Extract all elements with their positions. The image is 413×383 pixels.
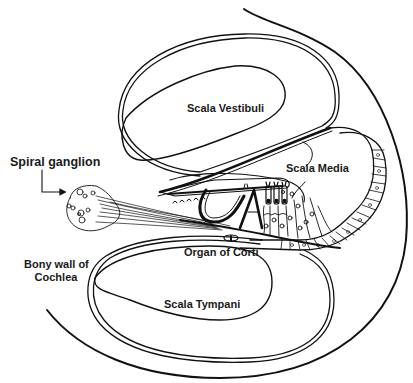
label-scala-vestibuli: Scala Vestibuli [187, 102, 264, 115]
label-scala-tympani: Scala Tympani [164, 298, 240, 311]
inner-sulcus-u [200, 190, 244, 222]
scala-media-wall [250, 127, 374, 240]
cochlear-nerve-fibers [96, 196, 230, 230]
arrow-head-icon [60, 189, 66, 195]
bony-wall-outer-curve [47, 9, 407, 378]
cochlea-drawing [0, 0, 413, 383]
label-scala-media: Scala Media [286, 162, 349, 175]
label-organ-of-corti: Organ of Corti [184, 246, 259, 259]
label-spiral-ganglion: Spiral ganglion [10, 156, 100, 169]
label-bony-wall: Bony wall of Cochlea [24, 258, 88, 284]
cochlea-diagram: Scala Vestibuli Scala Media Spiral gangl… [0, 0, 413, 383]
label-bony-wall-line1: Bony wall of [24, 258, 88, 271]
label-bony-wall-line2: Cochlea [24, 271, 88, 284]
spiral-ganglion-pointer [42, 170, 60, 192]
